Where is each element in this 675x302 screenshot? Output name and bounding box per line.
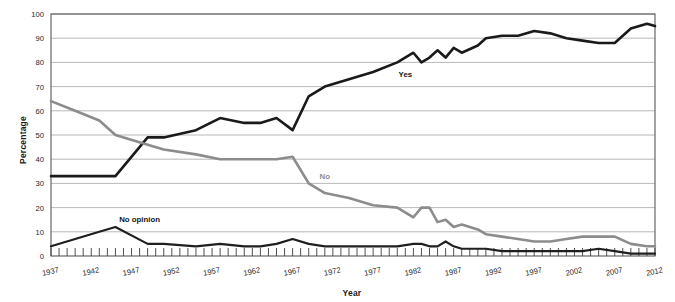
y-tick-label: 60 <box>36 107 44 116</box>
y-tick-label: 50 <box>36 131 44 140</box>
chart-background <box>0 0 675 302</box>
y-tick-label: 100 <box>31 10 44 19</box>
chart-figure: 0102030405060708090100 19371942194719521… <box>0 0 675 302</box>
series-annotation-no: No <box>320 172 331 181</box>
y-tick-label: 40 <box>36 155 44 164</box>
y-axis-title: Percentage <box>18 116 28 164</box>
y-tick-label: 80 <box>36 58 44 67</box>
y-tick-label: 0 <box>40 252 44 261</box>
y-tick-label: 30 <box>36 179 44 188</box>
y-tick-label: 70 <box>36 83 44 92</box>
y-tick-label: 90 <box>36 34 44 43</box>
series-annotation-no-opinion: No opinion <box>119 215 160 224</box>
line-chart-canvas: 0102030405060708090100 19371942194719521… <box>0 0 675 302</box>
x-axis-title: Year <box>343 288 362 298</box>
series-annotation-yes: Yes <box>399 70 413 79</box>
y-tick-label: 10 <box>36 228 44 237</box>
y-tick-label: 20 <box>36 204 44 213</box>
